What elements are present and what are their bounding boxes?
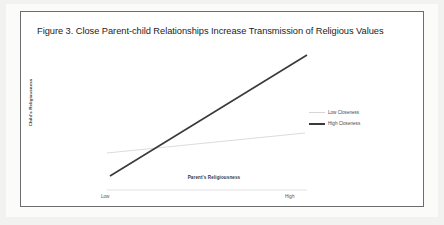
y-axis-label: Child's Religiousness [28,66,33,140]
x-axis-label: Parent's Religiousness [159,175,269,180]
x-tick-label-high: High [285,194,294,199]
plot-area: Child's Religiousness Parent's Religious… [21,12,425,208]
legend-item-high-closeness: High Closeness [309,118,409,129]
legend-label-low-closeness: Low Closeness [328,110,359,115]
legend-swatch-low-closeness-icon [309,112,325,113]
series-line-low-closeness [107,133,305,153]
page-canvas: Figure 3. Close Parent-child Relationshi… [0,0,444,225]
series-line-high-closeness [110,55,307,176]
legend-item-low-closeness: Low Closeness [309,107,409,118]
legend-swatch-high-closeness-icon [309,123,325,125]
x-tick-label-low: Low [101,194,109,199]
figure-container: Figure 3. Close Parent-child Relationshi… [20,11,424,207]
legend-label-high-closeness: High Closeness [328,121,360,126]
chart-legend: Low Closeness High Closeness [309,107,409,129]
